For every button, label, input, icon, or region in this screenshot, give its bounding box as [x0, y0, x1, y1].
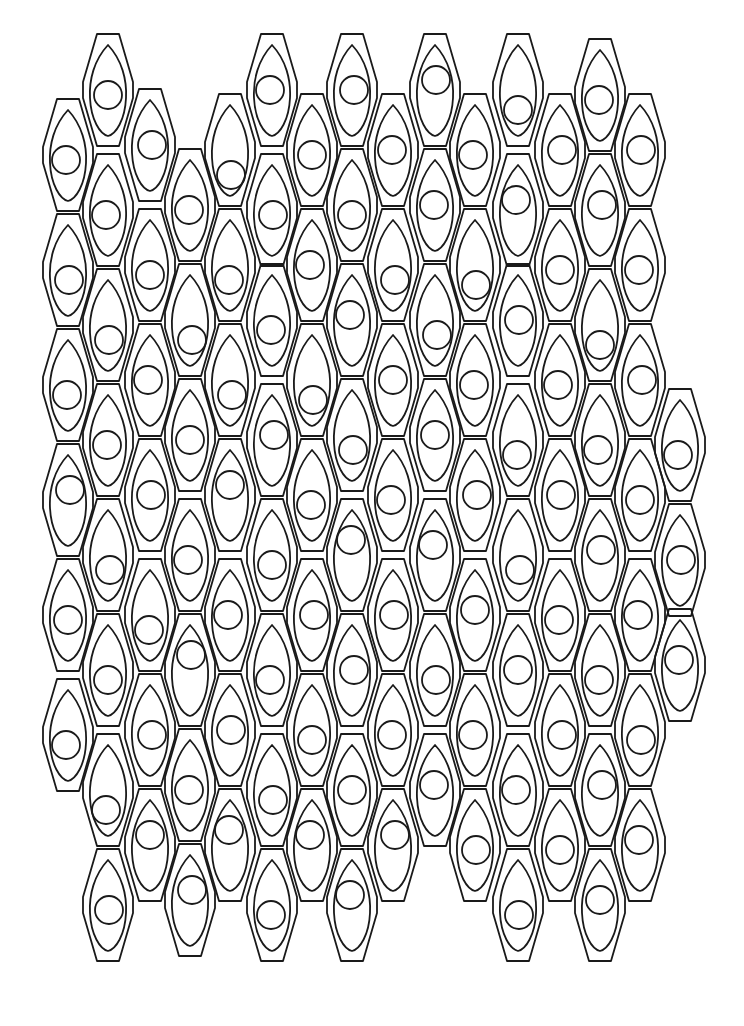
circle-icon — [217, 716, 245, 744]
circle-icon — [462, 271, 490, 299]
circle-icon — [53, 381, 81, 409]
circle-icon — [177, 641, 205, 669]
circle-icon — [380, 601, 408, 629]
hexagon-teardrop-shape — [327, 849, 377, 961]
circle-icon — [216, 471, 244, 499]
circle-icon — [259, 201, 287, 229]
circle-icon — [218, 381, 246, 409]
pattern-cell — [83, 34, 133, 146]
circle-icon — [256, 666, 284, 694]
circle-icon — [544, 371, 572, 399]
circle-icon — [588, 771, 616, 799]
circle-icon — [138, 131, 166, 159]
circle-icon — [422, 666, 450, 694]
circle-icon — [505, 306, 533, 334]
pattern-cell — [493, 154, 543, 266]
pattern-cell — [410, 34, 460, 146]
pattern-cell — [493, 734, 543, 846]
circle-icon — [419, 531, 447, 559]
pattern-cell — [493, 264, 543, 376]
circle-icon — [175, 196, 203, 224]
pattern-cell — [125, 89, 175, 201]
circle-icon — [547, 481, 575, 509]
circle-icon — [134, 366, 162, 394]
circle-icon — [298, 726, 326, 754]
circle-icon — [381, 821, 409, 849]
circle-icon — [421, 421, 449, 449]
hexagon-teardrop-shape — [368, 674, 418, 786]
circle-icon — [94, 666, 122, 694]
circle-icon — [378, 136, 406, 164]
pattern-cell — [287, 674, 337, 786]
circle-icon — [548, 721, 576, 749]
circle-icon — [299, 386, 327, 414]
circle-icon — [52, 146, 80, 174]
pattern-cell — [327, 34, 377, 146]
circle-icon — [462, 836, 490, 864]
hexagon-teardrop-shape — [125, 89, 175, 201]
circle-icon — [626, 486, 654, 514]
circle-icon — [381, 266, 409, 294]
circle-icon — [627, 726, 655, 754]
circle-icon — [215, 266, 243, 294]
circle-icon — [55, 266, 83, 294]
pattern-cell — [575, 849, 625, 961]
circle-icon — [296, 821, 324, 849]
circle-icon — [136, 261, 164, 289]
circle-icon — [135, 616, 163, 644]
circle-icon — [257, 316, 285, 344]
circle-icon — [587, 536, 615, 564]
circle-icon — [175, 776, 203, 804]
hexagon-teardrop-shape — [615, 674, 665, 786]
pattern-cell — [450, 439, 500, 551]
pattern-cell — [368, 674, 418, 786]
pattern-cell — [368, 439, 418, 551]
hexagon-teardrop-shape — [450, 439, 500, 551]
circle-icon — [625, 826, 653, 854]
circle-icon — [256, 76, 284, 104]
hexagon-teardrop-shape — [493, 614, 543, 726]
circle-icon — [95, 326, 123, 354]
hexagon-teardrop-shape — [83, 34, 133, 146]
circle-icon — [420, 771, 448, 799]
hexagon-teardrop-shape — [493, 154, 543, 266]
pattern-cell — [493, 384, 543, 496]
hexagon-pattern-artwork — [0, 0, 744, 1026]
pattern-cell — [165, 499, 215, 611]
hexagon-teardrop-shape — [655, 609, 705, 721]
circle-icon — [586, 331, 614, 359]
pattern-cell — [615, 674, 665, 786]
circle-icon — [546, 836, 574, 864]
circle-icon — [257, 901, 285, 929]
hexagon-teardrop-shape — [575, 499, 625, 611]
circle-icon — [258, 551, 286, 579]
circle-icon — [259, 786, 287, 814]
circle-icon — [92, 201, 120, 229]
hexagon-teardrop-shape — [205, 439, 255, 551]
circle-icon — [92, 796, 120, 824]
circle-icon — [54, 606, 82, 634]
circle-icon — [420, 191, 448, 219]
hexagon-teardrop-shape — [327, 34, 377, 146]
circle-icon — [665, 646, 693, 674]
circle-icon — [504, 656, 532, 684]
circle-icon — [586, 886, 614, 914]
hexagon-teardrop-shape — [493, 384, 543, 496]
pattern-cell — [83, 849, 133, 961]
circle-icon — [93, 431, 121, 459]
circle-icon — [52, 731, 80, 759]
circle-icon — [94, 81, 122, 109]
hexagon-teardrop-shape — [125, 439, 175, 551]
pattern-cell — [247, 849, 297, 961]
circle-icon — [585, 86, 613, 114]
pattern-cell — [125, 439, 175, 551]
circle-icon — [625, 256, 653, 284]
circle-icon — [338, 776, 366, 804]
circle-icon — [504, 96, 532, 124]
circle-icon — [548, 136, 576, 164]
circle-icon — [584, 436, 612, 464]
hexagon-teardrop-shape — [493, 264, 543, 376]
circle-icon — [585, 666, 613, 694]
pattern-cell — [493, 499, 543, 611]
pattern-cell — [493, 34, 543, 146]
